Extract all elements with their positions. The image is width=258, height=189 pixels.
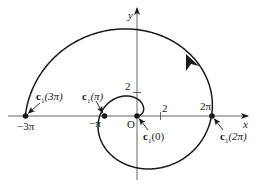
point-c1-0 <box>134 113 140 119</box>
tick-neg-3pi: −3π <box>17 121 34 132</box>
label-c1-2pi: c1(2π) <box>220 131 247 142</box>
x-tick-2-label: 2 <box>162 103 168 114</box>
origin-label: O <box>127 119 135 130</box>
point-c1-pi <box>102 113 108 119</box>
label-c1-0: c1(0) <box>143 131 164 142</box>
tick-2pi: 2π <box>200 101 211 112</box>
y-tick-2-label: 2 <box>125 81 131 92</box>
tick-neg-pi: −π <box>89 118 101 129</box>
pointer-c1-pi <box>96 101 103 113</box>
point-c1-3pi <box>23 113 29 119</box>
point-c1-2pi <box>209 113 215 119</box>
pointer-c1-3pi <box>29 103 41 113</box>
y-axis-label: y <box>128 10 133 21</box>
label-c1-3pi: c1(3π) <box>36 91 63 102</box>
x-axis-label: x <box>243 119 248 130</box>
pointer-c1-0 <box>140 119 149 130</box>
label-c1-pi: c1(π) <box>82 91 103 102</box>
pointer-c1-2pi <box>215 119 224 130</box>
